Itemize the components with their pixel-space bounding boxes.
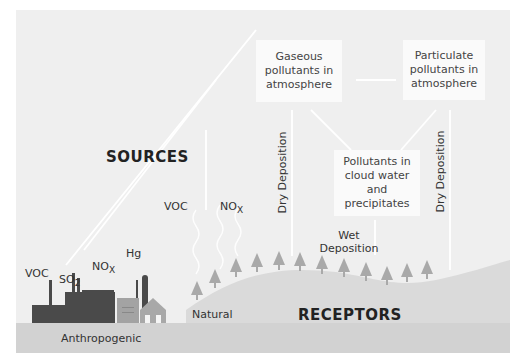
nox-base: NO: [92, 260, 109, 273]
dry-deposition-left-label: Dry Deposition: [276, 126, 289, 220]
natural-voc-label: VOC: [164, 200, 188, 213]
particulate-pollutants-label: Particulate pollutants in atmosphere: [405, 49, 483, 91]
cloud-pollutants-label: Pollutants in cloud water and precipitat…: [336, 155, 418, 211]
gaseous-pollutants-box: Gaseous pollutants in atmosphere: [256, 40, 342, 102]
natural-label: Natural: [192, 308, 233, 321]
anthropogenic-so2-label: SO2: [59, 273, 80, 290]
natural-nox-label: NOX: [220, 200, 243, 217]
particulate-pollutants-box: Particulate pollutants in atmosphere: [403, 40, 485, 100]
natural-nox-base: NO: [220, 200, 237, 213]
wet-deposition-line1: Wet: [313, 229, 385, 242]
anthropogenic-hg-label: Hg: [126, 247, 141, 260]
receptors-title: RECEPTORS: [298, 306, 402, 324]
nox-subscript: X: [109, 265, 115, 275]
wet-deposition-label: Wet Deposition: [313, 229, 385, 255]
anthropogenic-voc-label: VOC: [25, 267, 49, 280]
natural-nox-subscript: X: [237, 205, 243, 215]
arrow-particulate-to-cloud: [401, 110, 436, 150]
anthropogenic-label: Anthropogenic: [61, 332, 141, 345]
anthropogenic-nox-label: NOX: [92, 260, 115, 277]
so2-subscript: 2: [75, 278, 81, 288]
cloud-pollutants-box: Pollutants in cloud water and precipitat…: [334, 150, 420, 216]
gaseous-pollutants-label: Gaseous pollutants in atmosphere: [258, 50, 340, 92]
arrow-gaseous-to-cloud: [311, 110, 351, 150]
sources-title: SOURCES: [106, 148, 189, 166]
wet-deposition-line2: Deposition: [313, 242, 385, 255]
diagram-panel: Gaseous pollutants in atmosphere Particu…: [16, 10, 510, 353]
dry-deposition-right-label: Dry Deposition: [434, 125, 447, 219]
so2-base: SO: [59, 273, 75, 286]
